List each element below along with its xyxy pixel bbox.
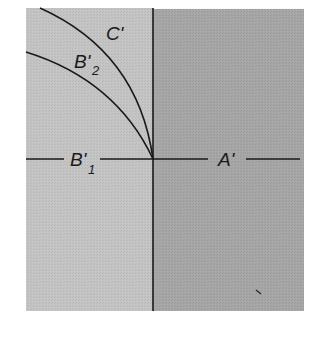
label-c-prime: C' xyxy=(106,23,125,44)
label-b-prime-1-subscript: 1 xyxy=(88,162,95,177)
label-b-prime-1: B' xyxy=(70,149,88,170)
diagram-canvas: C' B' 2 B' 1 A' xyxy=(0,0,321,338)
label-b-prime-2-subscript: 2 xyxy=(91,63,100,78)
label-b-prime-2: B' xyxy=(74,51,92,72)
label-a-prime: A' xyxy=(217,149,236,170)
